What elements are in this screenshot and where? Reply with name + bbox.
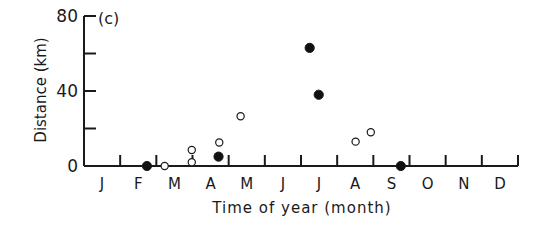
open-data-point: [367, 129, 374, 136]
data-points: [142, 43, 405, 170]
open-data-point: [352, 138, 359, 145]
x-tick-labels: JFMAMJJASOND: [99, 175, 506, 193]
x-month-label: M: [240, 175, 253, 193]
filled-data-point: [396, 161, 405, 170]
x-month-label: F: [134, 175, 143, 193]
filled-data-point: [142, 161, 151, 170]
x-month-label: O: [422, 175, 434, 193]
y-tick-labels: 04080: [56, 6, 78, 176]
open-data-point: [161, 162, 168, 169]
x-month-label: J: [99, 175, 104, 193]
y-tick-label: 40: [56, 81, 78, 101]
x-month-label: J: [316, 175, 321, 193]
open-data-point: [237, 113, 244, 120]
distance-scatter-chart: 04080 JFMAMJJASOND (c) Time of year (mon…: [0, 0, 540, 231]
open-data-point: [188, 146, 195, 153]
x-month-label: M: [168, 175, 181, 193]
filled-data-point: [214, 152, 223, 161]
x-month-label: S: [387, 175, 397, 193]
x-month-label: N: [458, 175, 469, 193]
x-axis-title: Time of year (month): [211, 199, 391, 217]
y-tick-label: 0: [67, 156, 78, 176]
open-data-point: [216, 139, 223, 146]
x-month-label: J: [280, 175, 285, 193]
panel-label: (c): [98, 9, 119, 28]
y-axis-title: Distance (km): [32, 37, 50, 142]
filled-data-point: [314, 90, 323, 99]
axes: [84, 16, 518, 166]
x-month-label: A: [350, 175, 361, 193]
x-month-label: D: [494, 175, 506, 193]
y-tick-label: 80: [56, 6, 78, 26]
x-month-label: A: [205, 175, 216, 193]
open-data-point: [188, 159, 195, 166]
filled-data-point: [305, 43, 314, 52]
